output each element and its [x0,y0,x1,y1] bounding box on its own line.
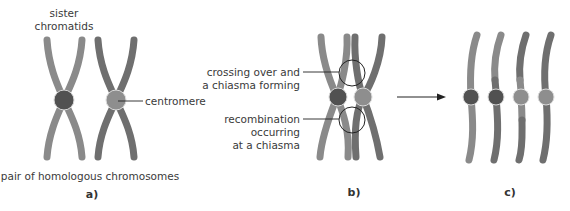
label-centromere: centromere [145,95,206,107]
caption-b: b) [348,186,361,199]
panel-b: crossing over and a chiasma forming reco… [202,37,382,199]
label-homologous-pair: pair of homologous chromosomes [1,170,179,182]
centromere-1 [463,89,479,105]
label-at-a-chiasma: at a chiasma [232,139,300,151]
label-sister: sister [50,7,79,19]
label-recombination: recombination [224,113,300,125]
centromere-2 [488,89,504,105]
centromere-light [106,90,126,110]
label-chromatids: chromatids [35,20,94,32]
centromere-3 [513,89,529,105]
caption-a: a) [86,188,98,201]
centromere-4 [538,89,554,105]
label-chiasma-forming: a chiasma forming [202,79,300,91]
caption-c: c) [504,186,516,199]
panel-a: sister chromatids centromere pair of hom… [1,7,206,201]
centromere-dark [329,88,347,106]
meiosis-crossing-over-diagram: sister chromatids centromere pair of hom… [0,0,570,211]
centromere-dark [54,90,74,110]
panel-c: c) [463,35,554,199]
label-occurring: occurring [251,126,300,138]
centromere-light [354,88,372,106]
label-crossing-over: crossing over and [207,66,300,78]
arrow-icon [397,94,446,101]
